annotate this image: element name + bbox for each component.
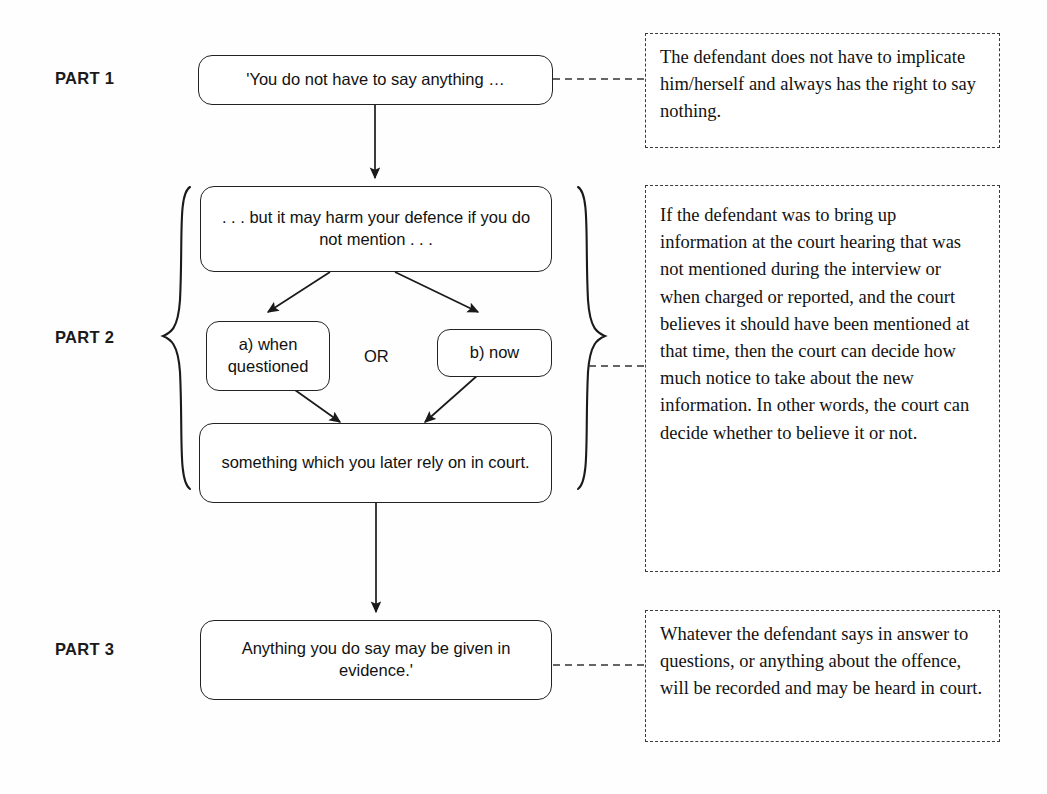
right-brace [578, 187, 605, 489]
flow-box-part3-statement: Anything you do say may be given in evid… [200, 620, 552, 700]
note-box-part3: Whatever the defendant says in answer to… [645, 610, 1000, 742]
arrow-statement-to-option-a [268, 272, 330, 312]
part-label-3: PART 3 [55, 640, 114, 659]
arrow-option-a-to-conclusion [295, 390, 340, 422]
flow-box-option-b: b) now [437, 329, 552, 377]
arrow-option-b-to-conclusion [425, 375, 478, 422]
diagram-canvas: PART 1 PART 2 PART 3 'You do not have to… [0, 0, 1047, 794]
flow-box-part1-statement: 'You do not have to say anything … [198, 55, 553, 105]
note-box-part1: The defendant does not have to implicate… [645, 33, 1000, 148]
part-label-1: PART 1 [55, 69, 114, 88]
part-label-2: PART 2 [55, 328, 114, 347]
flow-box-option-a: a) when questioned [206, 321, 330, 391]
or-label: OR [364, 347, 389, 366]
left-brace [163, 187, 190, 489]
flow-box-part2-conclusion: something which you later rely on in cou… [199, 423, 552, 503]
arrow-statement-to-option-b [395, 272, 478, 312]
flow-box-part2-statement: . . . but it may harm your defence if yo… [200, 186, 552, 272]
note-box-part2: If the defendant was to bring up informa… [645, 185, 1000, 572]
